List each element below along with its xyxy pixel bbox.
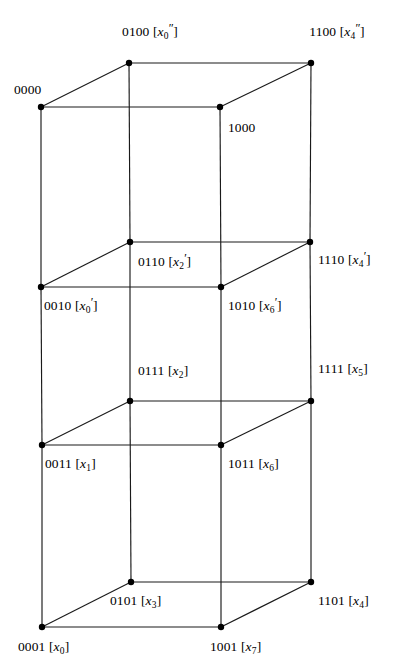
vertex-bits-1101: 1101 [318, 593, 345, 608]
edge-0111-0101 [130, 401, 131, 582]
vertex-bits-0010: 0010 [44, 298, 71, 313]
hypercube-diagram: 0100 [x0″]1100 [x4″]000010000110 [x2′]11… [0, 0, 405, 670]
edge-1100-1110 [310, 63, 311, 242]
vertex-label-1110: 1110 [x4′] [318, 250, 371, 270]
vertex-node-1011[interactable] [218, 442, 224, 448]
vertex-var-1101: x4 [353, 593, 364, 608]
vertex-label-0110: 0110 [x2′] [138, 252, 191, 272]
vertex-node-1110[interactable] [307, 239, 313, 245]
vertex-node-1000[interactable] [217, 104, 223, 110]
vertex-label-0100: 0100 [x0″] [122, 22, 178, 42]
vertex-bracket-close-0111: ] [184, 363, 189, 378]
vertex-label-0010: 0010 [x0′] [44, 296, 98, 316]
edge-0011-0111 [42, 401, 130, 445]
vertex-label-0101: 0101 [x3] [110, 594, 161, 611]
vertex-label-1001: 1001 [x7] [210, 640, 261, 657]
edge-0010-0110 [41, 242, 130, 287]
vertex-bits-1110: 1110 [318, 252, 344, 267]
vertex-bracket-close-1110: ] [366, 252, 371, 267]
vertex-node-0001[interactable] [39, 624, 45, 630]
vertex-label-1011: 1011 [x6] [228, 457, 279, 474]
vertex-bracket-close-1001: ] [257, 639, 262, 654]
vertex-bits-1000: 1000 [228, 120, 255, 135]
vertex-bits-0000: 0000 [14, 82, 41, 97]
vertex-var-1110: x4′ [352, 252, 365, 267]
lattice-graph [0, 0, 405, 670]
vertex-var-1111: x5 [352, 361, 363, 376]
vertex-bits-1011: 1011 [228, 456, 255, 471]
vertex-bits-0111: 0111 [138, 363, 164, 378]
vertex-label-1010: 1010 [x6′] [228, 296, 282, 316]
vertex-var-1011: x6 [263, 456, 274, 471]
vertex-bracket-close-0001: ] [65, 639, 70, 654]
vertex-bracket-close-0010: ] [93, 298, 98, 313]
vertex-node-0010[interactable] [38, 284, 44, 290]
vertex-label-1000: 1000 [228, 121, 255, 135]
vertex-label-0000: 0000 [14, 83, 41, 97]
vertex-bits-1100: 1100 [309, 24, 336, 39]
vertex-bits-0001: 0001 [18, 639, 45, 654]
vertex-bracket-close-1101: ] [364, 593, 369, 608]
vertex-node-1101[interactable] [308, 579, 314, 585]
vertex-bracket-close-1011: ] [274, 456, 279, 471]
edge-0010-0011 [41, 287, 42, 445]
node-layer [38, 60, 314, 630]
vertex-var-0101: x3 [145, 593, 156, 608]
edge-1000-1010 [220, 107, 221, 287]
vertex-var-0100: x0″ [158, 24, 174, 39]
vertex-bits-0011: 0011 [45, 456, 72, 471]
edge-1000-1100 [220, 63, 311, 107]
edge-0000-0100 [41, 63, 129, 107]
vertex-label-0011: 0011 [x1] [45, 457, 96, 474]
edge-0100-0110 [129, 63, 130, 242]
vertex-bits-1111: 1111 [318, 361, 344, 376]
vertex-bracket-close-0110: ] [186, 254, 191, 269]
vertex-node-0110[interactable] [127, 239, 133, 245]
vertex-bracket-open-1011: [ [255, 456, 263, 471]
vertex-var-1010: x6′ [263, 298, 276, 313]
vertex-bracket-close-1111: ] [363, 361, 368, 376]
vertex-label-1101: 1101 [x4] [318, 594, 369, 611]
vertex-var-0011: x1 [80, 456, 91, 471]
vertex-node-0111[interactable] [127, 398, 133, 404]
vertex-bracket-close-1010: ] [277, 298, 282, 313]
vertex-node-0100[interactable] [126, 60, 132, 66]
vertex-node-0101[interactable] [128, 579, 134, 585]
edge-1011-1111 [221, 401, 311, 445]
edge-1010-1110 [221, 242, 310, 287]
vertex-node-1100[interactable] [308, 60, 314, 66]
vertex-var-0001: x0 [53, 639, 64, 654]
vertex-var-0010: x0′ [79, 298, 92, 313]
vertex-bracket-close-0011: ] [91, 456, 96, 471]
vertex-bracket-close-1100: ] [360, 24, 365, 39]
vertex-label-1100: 1100 [x4″] [309, 22, 364, 42]
vertex-node-0011[interactable] [39, 442, 45, 448]
vertex-bits-0110: 0110 [138, 254, 165, 269]
edge-layer [41, 63, 311, 627]
edge-1110-1111 [310, 242, 311, 401]
vertex-node-1001[interactable] [218, 624, 224, 630]
vertex-var-0111: x2 [172, 363, 183, 378]
vertex-bits-0101: 0101 [110, 593, 137, 608]
vertex-bracket-open-1100: [ [336, 24, 344, 39]
vertex-node-1111[interactable] [308, 398, 314, 404]
vertex-bits-1010: 1010 [228, 298, 255, 313]
edge-1001-1101 [221, 582, 311, 627]
vertex-var-1001: x7 [245, 639, 256, 654]
vertex-var-1100: x4″ [344, 24, 360, 39]
vertex-bits-1001: 1001 [210, 639, 237, 654]
vertex-bracket-open-1101: [ [345, 593, 353, 608]
vertex-label-0001: 0001 [x0] [18, 640, 69, 657]
vertex-node-1010[interactable] [218, 284, 224, 290]
vertex-bracket-open-1111: [ [344, 361, 352, 376]
vertex-bracket-close-0101: ] [157, 593, 162, 608]
vertex-bits-0100: 0100 [122, 24, 149, 39]
vertex-var-0110: x2′ [173, 254, 186, 269]
vertex-label-1111: 1111 [x5] [318, 362, 368, 379]
vertex-bracket-open-0110: [ [165, 254, 173, 269]
vertex-node-0000[interactable] [38, 104, 44, 110]
vertex-bracket-close-0100: ] [173, 24, 178, 39]
vertex-label-0111: 0111 [x2] [138, 364, 188, 381]
vertex-bracket-open-0011: [ [72, 456, 80, 471]
